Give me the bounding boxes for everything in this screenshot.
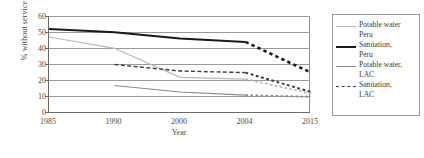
x-tick-2000: 2000 (171, 117, 187, 126)
series-line-potable_water_lac-projected (246, 95, 312, 97)
legend-label-potable-water-peru: Potable waterPeru (359, 20, 401, 39)
y-tick-40: 40 (24, 45, 46, 53)
legend-label-line2: Peru (359, 50, 373, 59)
y-tick-60: 60 (24, 13, 46, 21)
legend-label-sanitation-lac: Sanitation,LAC (359, 80, 392, 99)
series-line-sanitation_lac-observed (115, 65, 246, 73)
legend-label-line1: Sanitation, (359, 40, 392, 49)
y-tick-50: 50 (24, 29, 46, 37)
series-line-potable_water_peru-observed (49, 37, 246, 79)
legend-swatch-potable-water-lac (336, 62, 356, 72)
legend-label-line1: Potable water (359, 20, 401, 29)
series-line-potable_water_lac-observed (115, 86, 246, 96)
series-line-sanitation_lac-projected (246, 73, 312, 92)
legend-swatch-sanitation-lac (336, 82, 356, 92)
x-tick-2015: 2015 (302, 117, 318, 126)
legend-label-line1: Potable water, (359, 60, 402, 69)
y-tick-10: 10 (24, 93, 46, 101)
legend-swatch-sanitation-peru (336, 42, 356, 52)
legend-label-sanitation-peru: Sanitation,Peru (359, 40, 392, 59)
legend-item-potable-water-lac: Potable water,LAC (336, 60, 416, 79)
legend-swatch-potable-water-peru (336, 22, 356, 32)
data-series-layer (49, 16, 311, 113)
chart-figure: % without service 60 50 40 30 20 10 0 19… (0, 0, 424, 158)
x-tick-1990: 1990 (106, 117, 122, 126)
plot-area (48, 16, 310, 113)
x-axis-title: Year (48, 128, 310, 137)
legend-label-line1: Sanitation, (359, 80, 392, 89)
x-tick-1985: 1985 (40, 117, 56, 126)
y-axis-tick-labels: 60 50 40 30 20 10 0 (22, 0, 46, 158)
y-tick-0: 0 (24, 109, 46, 117)
legend-label-line2: Peru (359, 30, 373, 39)
legend-item-sanitation-lac: Sanitation,LAC (336, 80, 416, 99)
x-tick-2004: 2004 (237, 117, 253, 126)
y-tick-30: 30 (24, 61, 46, 69)
series-line-sanitation_peru-observed (49, 29, 246, 42)
chart-legend: Potable waterPeru Sanitation,Peru Potabl… (332, 14, 420, 116)
legend-item-sanitation-peru: Sanitation,Peru (336, 40, 416, 59)
legend-item-potable-water-peru: Potable waterPeru (336, 20, 416, 39)
legend-label-line2: LAC (359, 90, 374, 99)
legend-label-line2: LAC (359, 70, 374, 79)
legend-label-potable-water-lac: Potable water,LAC (359, 60, 402, 79)
series-line-sanitation_peru-projected (246, 42, 312, 73)
y-tick-20: 20 (24, 77, 46, 85)
